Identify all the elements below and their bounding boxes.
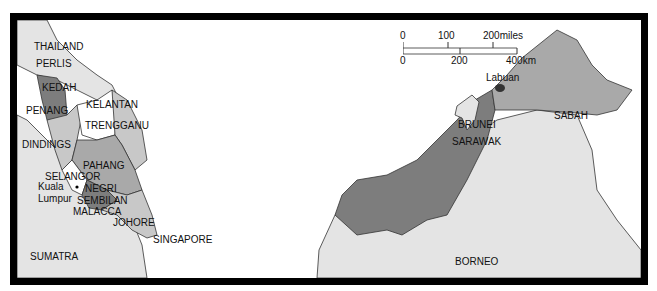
label-singapore: SINGAPORE [153,234,212,245]
label-kelantan: KELANTAN [86,99,138,110]
scale-km-0: 0 [400,55,406,66]
scale-miles-100: 100 [438,30,455,41]
kuala-lumpur-dot [75,185,78,188]
label-perlis: PERLIS [36,58,72,69]
label-pahang: PAHANG [83,160,125,171]
label-sembilan: SEMBILAN [77,195,128,206]
labuan-island [495,84,505,92]
label-penang: PENANG [26,105,68,116]
label-malacca: MALACCA [73,206,121,217]
label-thailand: THAILAND [34,41,83,52]
scale-km-400: 400km [506,55,536,66]
scale-miles-0: 0 [400,30,406,41]
label-negri: NEGRI [85,183,117,194]
label-johore: JOHORE [113,217,155,228]
label-lumpur: Lumpur [38,193,72,204]
label-kedah: KEDAH [42,82,76,93]
label-sumatra: SUMATRA [30,251,78,262]
label-dindings: DINDINGS [22,139,71,150]
label-trengganu: TRENGGANU [85,120,149,131]
label-sarawak: SARAWAK [452,136,501,147]
scale-km-200: 200 [451,55,468,66]
label-kuala: Kuala [38,181,64,192]
label-brunei: BRUNEI [458,119,496,130]
scale-bar: 0 100 200miles 0 200 400km [403,30,553,70]
scale-miles-200: 200miles [483,30,523,41]
label-labuan: Labuan [486,72,519,83]
label-borneo: BORNEO [455,256,498,267]
label-sabah: SABAH [554,110,588,121]
map-frame: 0 100 200miles 0 200 400km THAILAND PERL… [10,13,648,285]
